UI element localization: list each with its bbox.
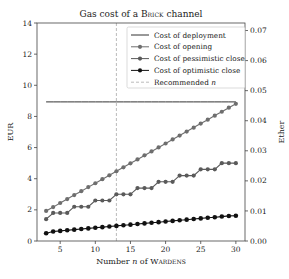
data-point xyxy=(198,216,203,221)
y-tick-label-left: 12 xyxy=(22,50,32,59)
legend-marker-swatch xyxy=(138,45,142,49)
data-point xyxy=(171,137,175,141)
data-point xyxy=(163,219,168,224)
data-point xyxy=(163,180,167,184)
legend-label: Cost of deployment xyxy=(154,31,226,40)
series-cost-of-optimistic-close xyxy=(44,213,238,235)
data-point xyxy=(107,224,112,229)
data-point xyxy=(206,118,210,122)
data-point xyxy=(72,193,76,197)
y-tick-label-right: 0.05 xyxy=(250,86,267,95)
data-point xyxy=(156,180,160,184)
data-point xyxy=(107,173,111,177)
data-point xyxy=(227,106,231,110)
data-point xyxy=(171,180,175,184)
data-point xyxy=(58,211,62,215)
y-axis-title-left: EUR xyxy=(6,122,15,142)
y-tick-label-left: 0 xyxy=(27,237,32,246)
data-point xyxy=(86,185,90,189)
legend: Cost of deploymentCost of openingCost of… xyxy=(127,27,245,88)
y-tick-label-left: 10 xyxy=(22,81,32,90)
data-point xyxy=(234,161,238,165)
data-point xyxy=(51,205,55,209)
series-cost-of-pessimistic-close xyxy=(44,161,238,221)
data-point xyxy=(199,121,203,125)
y-tick-label-right: 0.06 xyxy=(250,56,267,65)
data-point xyxy=(191,217,196,222)
y-tick-label-left: 6 xyxy=(27,143,32,152)
data-point xyxy=(220,110,224,114)
legend-marker-swatch xyxy=(138,68,142,72)
data-point xyxy=(142,153,146,157)
data-point xyxy=(100,177,104,181)
data-point xyxy=(114,224,119,229)
x-tick-label: 5 xyxy=(58,245,63,254)
x-axis-title: Number n of Wardens xyxy=(96,257,186,266)
data-point xyxy=(121,165,125,169)
legend-marker-swatch xyxy=(138,57,142,61)
data-point xyxy=(149,220,154,225)
data-point xyxy=(114,192,118,196)
chart-title: Gas cost of a Brick channel xyxy=(80,9,203,19)
data-point xyxy=(93,198,97,202)
data-point xyxy=(220,214,225,219)
data-point xyxy=(135,157,139,161)
data-point xyxy=(185,174,189,178)
svg-text:Number n of Wardens: Number n of Wardens xyxy=(96,257,186,266)
data-point xyxy=(44,209,48,213)
series-line xyxy=(46,163,236,219)
data-point xyxy=(44,217,48,221)
data-point xyxy=(65,211,69,215)
data-point xyxy=(177,218,182,223)
legend-label: Cost of pessimistic close xyxy=(154,54,245,63)
data-point xyxy=(170,219,175,224)
data-point xyxy=(184,217,189,222)
data-point xyxy=(79,189,83,193)
data-point xyxy=(212,215,217,220)
y-tick-label-left: 8 xyxy=(27,112,32,121)
data-point xyxy=(234,213,239,218)
data-point xyxy=(206,167,210,171)
data-point xyxy=(93,225,98,230)
svg-text:EUR: EUR xyxy=(6,122,15,142)
y-tick-label-right: 0.00 xyxy=(250,237,267,246)
data-point xyxy=(79,205,83,209)
x-tick-label: 10 xyxy=(91,245,101,254)
data-point xyxy=(58,201,62,205)
data-point xyxy=(227,214,232,219)
svg-text:Gas cost of a Brick channel: Gas cost of a Brick channel xyxy=(80,9,203,19)
data-point xyxy=(192,126,196,130)
data-point xyxy=(227,161,231,165)
data-point xyxy=(213,167,217,171)
data-point xyxy=(142,186,146,190)
data-point xyxy=(128,222,133,227)
y-tick-label-right: 0.07 xyxy=(250,26,267,35)
x-tick-label: 25 xyxy=(196,245,206,254)
data-point xyxy=(114,169,118,173)
data-point xyxy=(213,114,217,118)
legend-label: Cost of opening xyxy=(154,42,213,51)
data-point xyxy=(156,220,161,225)
x-tick-label: 30 xyxy=(231,245,241,254)
data-point xyxy=(58,229,63,234)
data-point xyxy=(178,133,182,137)
data-point xyxy=(51,211,55,215)
data-point xyxy=(86,226,91,231)
svg-text:Ether: Ether xyxy=(277,120,286,143)
data-point xyxy=(100,198,104,202)
data-point xyxy=(79,227,84,232)
data-point xyxy=(86,205,90,209)
y-tick-label-left: 4 xyxy=(27,174,32,183)
data-point xyxy=(192,174,196,178)
legend-label: Cost of optimistic close xyxy=(154,66,240,75)
data-point xyxy=(51,229,56,234)
series-cost-of-opening xyxy=(44,102,238,213)
x-tick-label: 15 xyxy=(126,245,136,254)
y-tick-label-left: 2 xyxy=(27,205,32,214)
data-point xyxy=(142,221,147,226)
y-tick-label-right: 0.04 xyxy=(250,116,267,125)
data-point xyxy=(128,192,132,196)
data-point xyxy=(149,149,153,153)
data-point xyxy=(93,181,97,185)
legend-label: Recommended n xyxy=(154,78,216,87)
